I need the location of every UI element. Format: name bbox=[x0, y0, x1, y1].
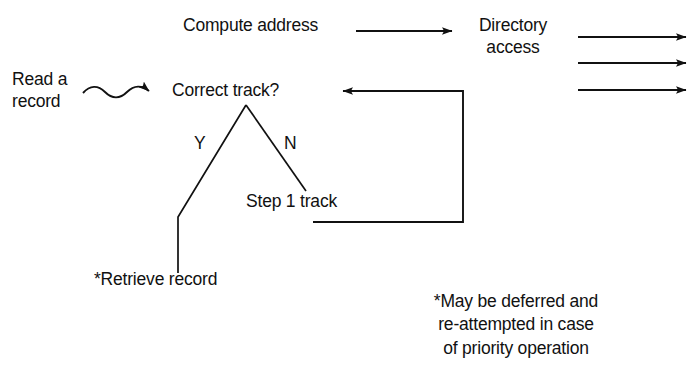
branch-label-no: N bbox=[284, 132, 296, 154]
node-compute-address: Compute address bbox=[183, 14, 318, 36]
footnote-text: *May be deferred and re-attempted in cas… bbox=[405, 290, 627, 360]
branch-label-yes: Y bbox=[194, 132, 205, 154]
node-retrieve-record: *Retrieve record bbox=[94, 268, 217, 290]
node-directory-access: Directory access bbox=[470, 14, 556, 59]
branch-no-line bbox=[246, 105, 306, 191]
wavy-arrow-read-to-correct-track bbox=[83, 87, 149, 98]
node-read-a-record: Read a record bbox=[12, 68, 67, 113]
branch-yes-line bbox=[178, 105, 246, 273]
node-correct-track: Correct track? bbox=[172, 79, 279, 101]
node-step-1-track: Step 1 track bbox=[246, 190, 337, 212]
flowchart-diagram: Read a record Compute address Directory … bbox=[0, 0, 695, 372]
